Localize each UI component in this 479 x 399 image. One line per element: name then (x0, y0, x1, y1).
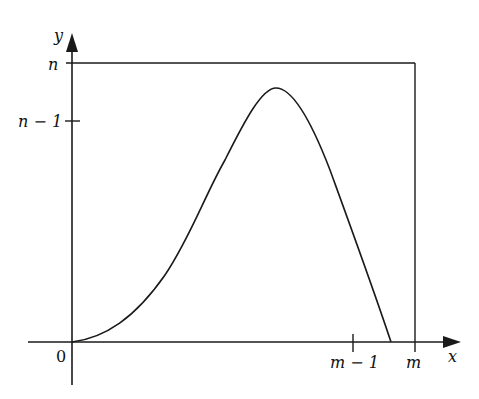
origin-label: 0 (56, 347, 66, 366)
y-axis-arrow-icon (66, 33, 78, 52)
x-tick-label-m: m (406, 353, 421, 372)
x-axis-label: x (448, 347, 457, 366)
diagram-canvas: y n n − 1 0 m − 1 m x (0, 0, 479, 399)
y-tick-label-n-minus-1: n − 1 (18, 112, 62, 131)
x-tick-label-m-minus-1: m − 1 (330, 353, 379, 372)
y-axis-label: y (53, 26, 64, 45)
y-tick-label-n: n (48, 55, 58, 74)
function-curve (72, 88, 391, 342)
